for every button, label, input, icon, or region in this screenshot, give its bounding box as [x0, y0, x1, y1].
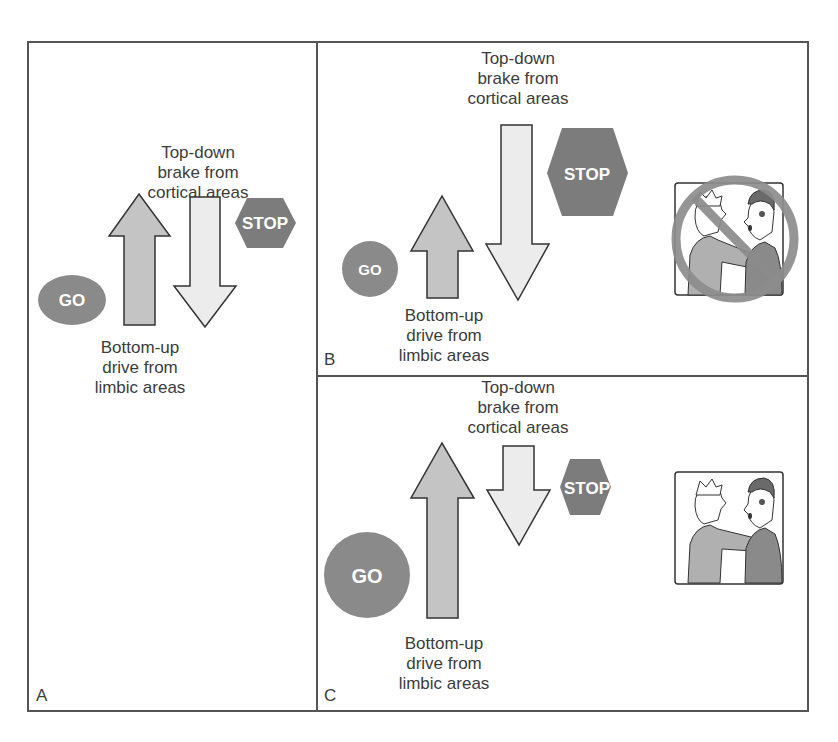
- panel-c-bottom-label: Bottom-up drive from limbic areas: [384, 634, 504, 694]
- label-line: drive from: [384, 654, 504, 674]
- fight-illustration: [675, 472, 783, 584]
- go-sign-icon: GO: [324, 532, 410, 618]
- label-line: Bottom-up: [384, 634, 504, 654]
- down-arrow-icon: [487, 446, 550, 545]
- label-line: limbic areas: [384, 674, 504, 694]
- go-sign-text: GO: [351, 565, 382, 587]
- panel-c-letter: C: [324, 686, 336, 706]
- up-arrow-icon: [411, 443, 474, 618]
- panel-c-graphics: GO STOP: [0, 0, 838, 742]
- stop-sign-icon: STOP: [560, 459, 611, 515]
- stop-sign-text: STOP: [564, 479, 610, 498]
